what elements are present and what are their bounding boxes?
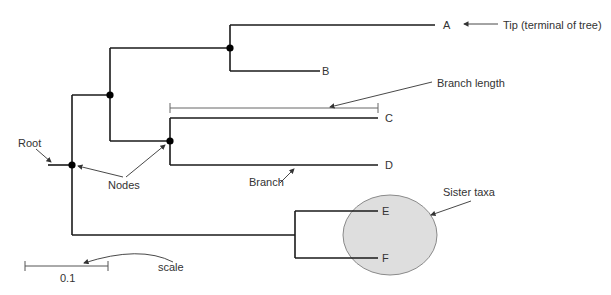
tip-label-E: E	[382, 205, 389, 217]
branch-length-annotation: Branch length	[437, 77, 505, 89]
tip-label-C: C	[385, 112, 393, 124]
branch-annotation: Branch	[249, 176, 284, 188]
sister-taxa-annotation: Sister taxa	[443, 186, 496, 198]
tip-label-B: B	[322, 65, 329, 77]
branch-length-bar	[170, 103, 378, 113]
scale-value: 0.1	[60, 272, 75, 284]
node-3	[226, 44, 233, 51]
tip-label-F: F	[382, 252, 389, 264]
branch-length-arrow	[330, 82, 432, 107]
root-annotation: Root	[18, 137, 41, 149]
scale-bar	[25, 261, 108, 271]
scale-annotation: scale	[158, 261, 184, 273]
root-node	[68, 161, 75, 168]
tip-annotation: Tip (terminal of tree)	[503, 19, 602, 31]
nodes-arrow-root	[78, 166, 123, 177]
node-2	[106, 91, 113, 98]
nodes-arrow-node4	[126, 145, 165, 177]
phylogenetic-tree-diagram: A B C D E F Tip (terminal of tree) Branc…	[0, 0, 611, 295]
node-4	[166, 137, 173, 144]
sister-taxa-highlight	[343, 195, 437, 275]
nodes-annotation: Nodes	[108, 179, 140, 191]
tip-label-D: D	[385, 159, 393, 171]
tree-nodes	[68, 44, 233, 168]
sister-taxa-arrow	[431, 201, 471, 215]
root-arrow	[36, 149, 51, 162]
tip-label-A: A	[443, 19, 451, 31]
